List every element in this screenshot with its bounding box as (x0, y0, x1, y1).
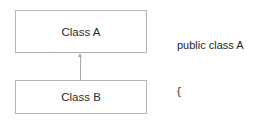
code-line: public class A (177, 38, 260, 53)
class-a-box: Class A (15, 10, 147, 53)
code-line: { (177, 84, 260, 99)
code-snippet: public class A { ... } public class B : … (177, 7, 260, 130)
inheritance-connector (80, 56, 81, 80)
class-b-box: Class B (15, 80, 147, 114)
class-a-label: Class A (62, 26, 101, 38)
class-b-label: Class B (61, 91, 101, 103)
